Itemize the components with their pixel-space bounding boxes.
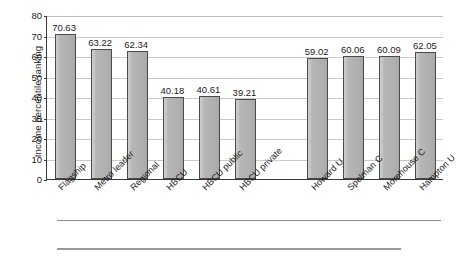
y-axis-tick-label: 20 (2, 134, 42, 144)
bar-value-label: 62.05 (413, 41, 437, 51)
bar (343, 56, 364, 179)
y-axis-tick-label: 50 (2, 73, 42, 83)
y-axis-tick-mark (44, 160, 47, 161)
y-axis-tick-mark (44, 98, 47, 99)
y-axis-tick-mark (44, 16, 47, 17)
bar (307, 58, 328, 179)
bar-value-label: 60.06 (341, 45, 365, 55)
bar (163, 97, 184, 179)
divider-rule-upper (57, 220, 441, 221)
bar-chart: Income percentile ranking 01020304050607… (0, 0, 472, 256)
bar-value-label: 63.22 (88, 38, 112, 48)
y-axis-tick-label: 70 (2, 32, 42, 42)
bar (91, 49, 112, 179)
bar (199, 96, 220, 179)
y-axis-tick-mark (44, 139, 47, 140)
y-axis-tick-label: 80 (2, 11, 42, 21)
y-axis-tick-mark (44, 119, 47, 120)
bar-value-label: 39.21 (233, 88, 257, 98)
bar-value-label: 60.09 (377, 45, 401, 55)
bar (55, 34, 76, 179)
y-axis-tick-mark (44, 180, 47, 181)
bar (235, 99, 256, 179)
y-axis-tick-mark (44, 78, 47, 79)
bar-value-label: 62.34 (124, 40, 148, 50)
y-axis-tick-label: 40 (2, 93, 42, 103)
y-axis-tick-label: 10 (2, 155, 42, 165)
bar-value-label: 40.18 (160, 86, 184, 96)
y-axis-tick-label: 30 (2, 114, 42, 124)
bar-value-label: 70.63 (52, 23, 76, 33)
gridline (47, 16, 443, 17)
y-axis-tick-mark (44, 37, 47, 38)
y-axis-tick-label: 60 (2, 52, 42, 62)
divider-rule-lower (57, 248, 401, 250)
bar-value-label: 59.02 (305, 47, 329, 57)
y-axis-tick-label: 0 (2, 175, 42, 185)
y-axis-tick-mark (44, 57, 47, 58)
bar-value-label: 40.61 (197, 85, 221, 95)
